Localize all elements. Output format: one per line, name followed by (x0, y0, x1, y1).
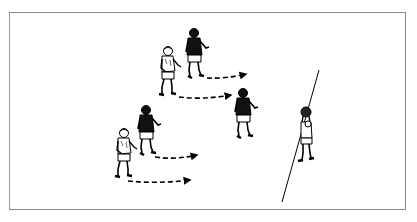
thrower-player (298, 107, 314, 161)
arrow-icon (179, 95, 231, 98)
player-light-jersey (159, 47, 181, 96)
player-light-jersey (115, 129, 137, 178)
rugby-lineout-diagram (0, 0, 417, 222)
players (115, 29, 314, 178)
player-dark-jersey (138, 106, 161, 156)
arrow-icon (207, 74, 246, 78)
arrow-icon (128, 180, 190, 182)
player-dark-jersey (186, 29, 209, 79)
arrow-icon (155, 155, 197, 158)
player-dark-jersey (235, 89, 258, 139)
